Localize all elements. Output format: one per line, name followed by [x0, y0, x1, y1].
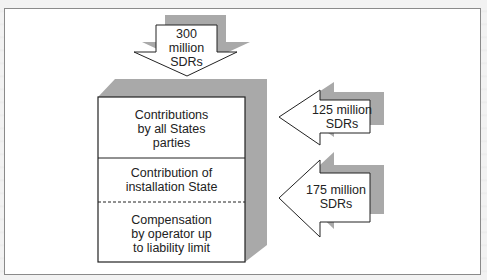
side-arrow-2-currency: SDRs [300, 197, 372, 211]
tier-1-line-2: by all States [98, 122, 245, 136]
side-arrow-2-label: 175 million SDRs [300, 183, 372, 211]
side-arrow-2-amount: 175 million [300, 183, 372, 197]
tier-3-line-3: to liability limit [98, 241, 245, 255]
side-arrow-1-amount: 125 million [306, 103, 378, 117]
top-arrow-unit: million [156, 41, 217, 55]
tier-3-line-1: Compensation [98, 213, 245, 227]
tier-states-parties: Contributions by all States parties [98, 108, 245, 150]
tier-operator-compensation: Compensation by operator up to liability… [98, 213, 245, 255]
top-arrow-amount: 300 [156, 27, 217, 41]
tier-3-line-2: by operator up [98, 227, 245, 241]
side-arrow-1-currency: SDRs [306, 117, 378, 131]
tier-2-line-2: installation State [98, 180, 245, 194]
tier-2-line-1: Contribution of [98, 166, 245, 180]
tier-1-line-1: Contributions [98, 108, 245, 122]
tier-installation-state: Contribution of installation State [98, 166, 245, 194]
side-arrow-1-label: 125 million SDRs [306, 103, 378, 131]
top-arrow-label: 300 million SDRs [156, 27, 217, 69]
tier-1-line-3: parties [98, 136, 245, 150]
top-arrow-currency: SDRs [156, 55, 217, 69]
